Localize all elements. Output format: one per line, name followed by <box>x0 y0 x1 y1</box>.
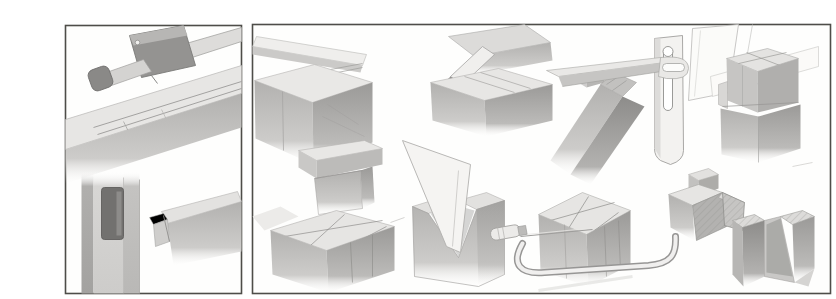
right-side-shade <box>477 201 505 287</box>
left-panel <box>66 26 242 294</box>
plate-keyhole <box>663 47 673 57</box>
woodworking-joints-plate <box>40 16 836 299</box>
post-right-edge <box>124 172 140 294</box>
arm-end-slot <box>663 64 685 72</box>
bottom-block-left-face <box>721 109 759 163</box>
saw-ferrule <box>518 225 527 235</box>
tenon-stem-side <box>361 167 375 209</box>
gauge-pin-hole <box>135 40 140 45</box>
socket-left-inner <box>743 221 765 287</box>
step-notch <box>719 82 728 109</box>
mortise-hole-highlight <box>117 192 122 236</box>
plate-edge-shade <box>655 39 661 159</box>
post-left-edge <box>82 172 94 294</box>
right-panel <box>253 25 831 294</box>
